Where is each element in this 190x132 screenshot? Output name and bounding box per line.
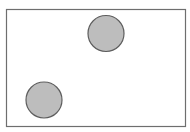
diagram-canvas bbox=[0, 0, 190, 132]
circle-lower-left bbox=[26, 82, 62, 118]
circle-upper-right bbox=[88, 16, 124, 52]
